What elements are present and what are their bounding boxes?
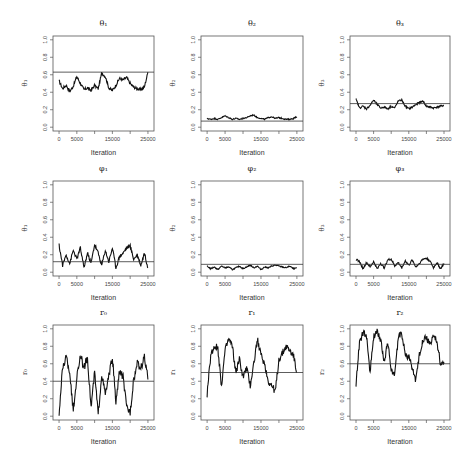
y-tick-label: 0.0: [339, 412, 345, 420]
x-tick-label: 25000: [436, 425, 451, 431]
x-tick-label: 5000: [367, 425, 379, 431]
y-tick-label: 0.2: [339, 395, 345, 403]
x-tick-label: 0: [354, 425, 357, 431]
y-tick-label: 1.0: [339, 325, 345, 333]
y-tick-label: 0.4: [339, 377, 345, 385]
x-tick-label: 15000: [401, 425, 416, 431]
y-tick-label: 0.6: [339, 360, 345, 368]
trace-line: [356, 329, 444, 387]
y-tick-label: 0.8: [339, 342, 345, 350]
plot-area: 0.00.20.40.60.81.0050001500025000: [0, 0, 474, 463]
